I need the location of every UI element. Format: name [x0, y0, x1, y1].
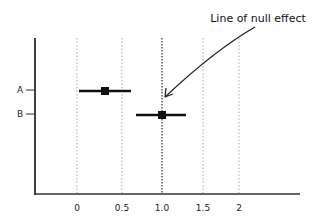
x-tick-label-1-0: 1.0 [155, 203, 170, 213]
row-label-b: B [17, 109, 23, 119]
x-tick-label-2: 2 [236, 203, 242, 213]
x-tick-label-1-5: 1.5 [196, 203, 210, 213]
row-label-a: A [17, 85, 24, 95]
x-tick-label-0: 0 [74, 203, 80, 213]
x-tick-label-0-5: 0.5 [115, 203, 129, 213]
annotation-arrow [165, 27, 255, 97]
forest-plot: A B 0 0.5 1.0 1.5 2 Line of null effect [0, 0, 328, 222]
point-estimate-b [158, 111, 166, 119]
point-estimate-a [101, 87, 109, 95]
annotation-label: Line of null effect [210, 12, 306, 25]
